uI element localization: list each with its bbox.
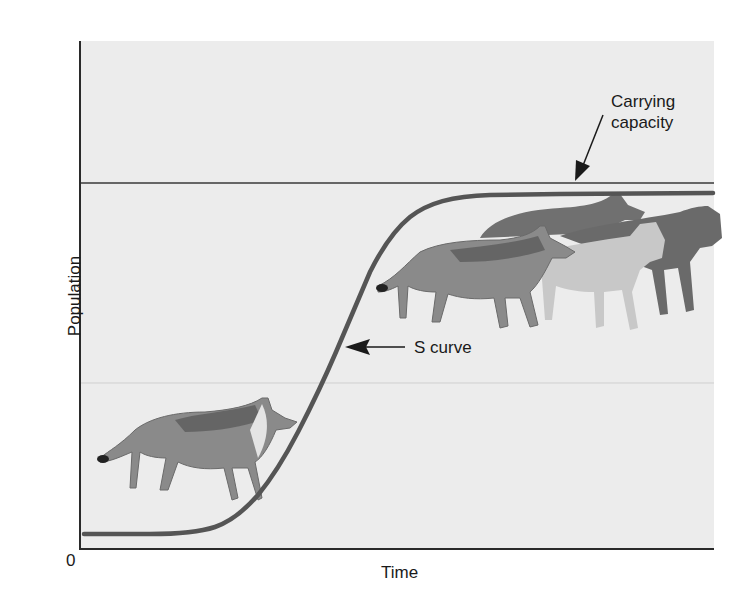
- x-axis-label: Time: [381, 563, 418, 583]
- wolf-pack-illustration: [376, 192, 722, 330]
- carrying-capacity-label-line1: Carrying: [611, 92, 675, 112]
- diagram-canvas: [0, 0, 752, 604]
- carrying-capacity-label-line2: capacity: [611, 113, 673, 133]
- origin-label: 0: [66, 551, 75, 571]
- s-curve-arrow: [345, 339, 405, 355]
- y-axis-label: Population: [65, 251, 85, 341]
- carrying-capacity-arrow: [575, 115, 603, 181]
- x-axis: [79, 548, 714, 550]
- s-curve-label: S curve: [414, 338, 472, 358]
